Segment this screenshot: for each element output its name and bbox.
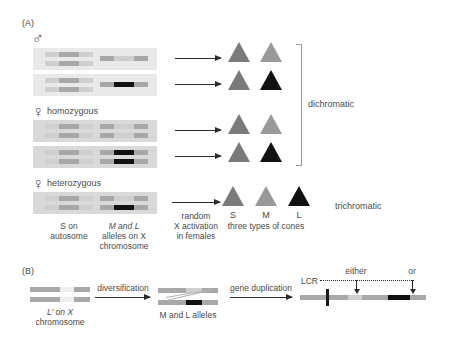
caption-random-x-line1: random [182, 211, 211, 221]
cone-s [228, 114, 250, 134]
arrow-female-homo-row-2 [175, 156, 221, 157]
caption-random-x-line2: X activation [174, 221, 218, 231]
panel-b-letter: (B) [22, 266, 34, 276]
autosome-bar [45, 52, 93, 57]
caption-ml-alleles-line3: chromosome [99, 241, 148, 251]
arrow-female-homo-row-1 [175, 130, 221, 131]
either-label: either [345, 266, 366, 276]
autosome-bar [45, 124, 93, 129]
cone-l [260, 142, 282, 162]
lprime-chromosome-bar [30, 297, 90, 302]
either-down-arrow [356, 280, 357, 290]
cone-label-l: L [296, 210, 301, 220]
cone-label-s: S [230, 210, 236, 220]
autosome-bar [45, 205, 93, 210]
x-chromosome-bar [100, 124, 148, 129]
panel-a-letter: (A) [22, 18, 34, 28]
autosome-bar [45, 78, 93, 83]
caption-m-and-l-alleles: M and L alleles [160, 310, 217, 320]
cone-m [260, 42, 282, 62]
heterozygous-label: heterozygous [47, 178, 101, 188]
arrow-female-hetero-row [172, 202, 220, 203]
x-chromosome-bar [100, 82, 148, 87]
caption-lprime-line1: L′ on X [47, 307, 73, 317]
lcr-label: LCR [301, 276, 318, 286]
cone-m [260, 114, 282, 134]
autosome-bar [45, 133, 93, 138]
x-chromosome-bar [100, 150, 148, 155]
arrow-male-row-2 [175, 84, 221, 85]
cone-l [260, 70, 282, 90]
arrow-gene-duplication [230, 297, 292, 298]
lcr-dotted-connector [320, 280, 414, 281]
caption-ml-alleles-line2: alleles on X [102, 231, 146, 241]
figure-root: (A) ♂ ♀ homozygous [0, 0, 452, 346]
cone-label-m: M [262, 210, 270, 220]
x-chromosome-bar [100, 159, 148, 164]
female-heterozygous-symbol-icon: ♀ [32, 176, 44, 192]
cone-s [228, 142, 250, 162]
homozygous-label: homozygous [47, 106, 98, 116]
autosome-bar [45, 87, 93, 92]
female-homozygous-symbol-icon: ♀ [32, 104, 44, 120]
or-down-arrow [412, 280, 413, 290]
trichromatic-label: trichromatic [335, 201, 382, 211]
caption-s-autosome-line2: autosome [50, 231, 87, 241]
lcr-tick [326, 289, 329, 306]
autosome-bar [45, 61, 93, 66]
cone-m [255, 186, 277, 206]
or-label: or [408, 266, 416, 276]
lprime-chromosome-bar [30, 287, 90, 292]
caption-ml-alleles-line1: M and L [109, 221, 140, 231]
autosome-bar [45, 159, 93, 164]
cone-s [228, 70, 250, 90]
autosome-bar [45, 196, 93, 201]
x-chromosome-bar [100, 133, 148, 138]
cone-s [222, 186, 244, 206]
x-chromosome-bar [100, 56, 148, 61]
caption-lprime-line2: chromosome [35, 317, 84, 327]
cone-l [288, 186, 310, 206]
dichromatic-bracket [296, 44, 302, 166]
label-gene-duplication: gene duplication [230, 283, 292, 293]
caption-s-autosome-line1: S on [60, 221, 78, 231]
arrow-diversification [95, 297, 150, 298]
caption-three-cones: three types of cones [228, 221, 305, 231]
x-chromosome-bar [100, 205, 148, 210]
duplicated-chromosome-bar [300, 295, 426, 300]
arrow-male-row-1 [175, 58, 221, 59]
label-diversification: diversification [97, 283, 149, 293]
autosome-bar [45, 150, 93, 155]
caption-random-x-line3: in females [177, 231, 216, 241]
male-symbol-icon: ♂ [32, 31, 44, 47]
dichromatic-label: dichromatic [308, 99, 354, 109]
x-chromosome-bar [100, 196, 148, 201]
cone-s [228, 42, 250, 62]
